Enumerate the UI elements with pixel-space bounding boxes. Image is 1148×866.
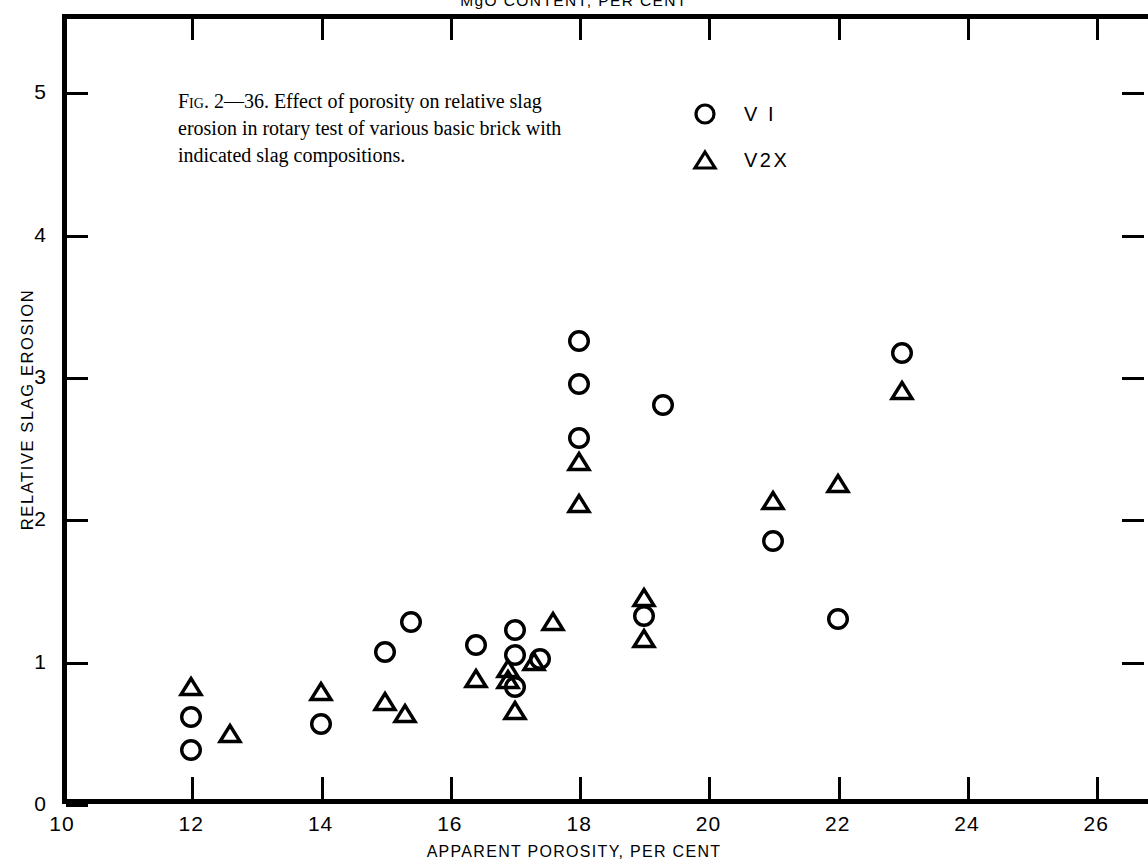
data-point-circle xyxy=(178,704,204,730)
data-point-circle xyxy=(650,392,676,418)
x-tick-label: 22 xyxy=(825,812,850,836)
y-tick-label: 0 xyxy=(22,792,46,816)
y-tick-left xyxy=(66,519,88,522)
x-tick-bottom xyxy=(579,777,582,799)
y-tick-label: 1 xyxy=(22,650,46,674)
data-point-circle xyxy=(178,737,204,763)
data-point-circle xyxy=(825,606,851,632)
data-point-triangle xyxy=(888,378,916,404)
data-point-triangle xyxy=(462,666,490,692)
y-tick-right xyxy=(1122,519,1144,522)
data-point-circle xyxy=(463,632,489,658)
x-tick-top xyxy=(321,18,324,40)
x-tick-top xyxy=(708,18,711,40)
data-point-circle xyxy=(566,328,592,354)
data-point-triangle xyxy=(539,609,567,635)
figure-caption: Fig. 2—36. Effect of porosity on relativ… xyxy=(178,88,578,168)
axis-left-line xyxy=(62,14,67,804)
axis-top-line xyxy=(62,14,1148,19)
x-tick-top xyxy=(967,18,970,40)
data-point-triangle xyxy=(391,701,419,727)
data-point-circle xyxy=(398,609,424,635)
legend-label-v2x: V2X xyxy=(744,149,789,172)
y-tick-right xyxy=(1122,235,1144,238)
x-tick-label: 12 xyxy=(179,812,204,836)
legend-item-v1: V I xyxy=(688,96,789,132)
x-tick-bottom xyxy=(450,777,453,799)
y-tick-left xyxy=(66,235,88,238)
data-point-triangle xyxy=(565,449,593,475)
x-tick-label: 26 xyxy=(1084,812,1109,836)
data-point-circle xyxy=(889,340,915,366)
y-tick-right xyxy=(1122,92,1144,95)
x-tick-label: 10 xyxy=(49,812,74,836)
x-tick-bottom xyxy=(321,777,324,799)
legend-item-v2x: V2X xyxy=(688,142,789,178)
data-point-triangle xyxy=(501,698,529,724)
legend: V I V2X xyxy=(688,96,789,188)
data-point-triangle xyxy=(824,471,852,497)
data-point-triangle xyxy=(216,721,244,747)
y-tick-left xyxy=(66,662,88,665)
y-tick-right xyxy=(1122,377,1144,380)
data-point-circle xyxy=(308,711,334,737)
x-tick-top xyxy=(191,18,194,40)
x-tick-label: 18 xyxy=(566,812,591,836)
data-point-circle xyxy=(372,639,398,665)
axis-bottom-line xyxy=(62,799,1148,804)
x-tick-top xyxy=(450,18,453,40)
x-tick-top xyxy=(1096,18,1099,40)
y-tick-right xyxy=(1122,662,1144,665)
data-point-triangle xyxy=(177,674,205,700)
data-point-triangle xyxy=(759,488,787,514)
data-point-triangle xyxy=(307,679,335,705)
x-tick-bottom xyxy=(967,777,970,799)
y-tick-left xyxy=(66,92,88,95)
data-point-triangle xyxy=(520,649,548,675)
x-tick-bottom xyxy=(838,777,841,799)
figure-scatter-plot: MgO CONTENT, PER CENT 101214161820222426… xyxy=(0,0,1148,866)
data-point-triangle xyxy=(630,585,658,611)
data-point-triangle xyxy=(494,667,522,693)
x-tick-bottom xyxy=(191,777,194,799)
data-point-triangle xyxy=(630,626,658,652)
data-point-circle xyxy=(566,425,592,451)
triangle-marker-icon xyxy=(688,148,722,172)
data-point-circle xyxy=(760,528,786,554)
y-tick-left xyxy=(66,377,88,380)
x-tick-label: 14 xyxy=(308,812,333,836)
y-tick-left xyxy=(66,804,88,807)
x-tick-top xyxy=(579,18,582,40)
y-axis-title: RELATIVE SLAG EROSION xyxy=(18,220,37,600)
data-point-circle xyxy=(566,371,592,397)
x-tick-bottom xyxy=(1096,777,1099,799)
x-tick-top xyxy=(62,18,65,40)
legend-label-v1: V I xyxy=(744,103,776,126)
data-point-circle xyxy=(502,617,528,643)
circle-marker-icon xyxy=(688,102,722,126)
top-axis-title: MgO CONTENT, PER CENT xyxy=(0,0,1148,10)
x-tick-label: 20 xyxy=(696,812,721,836)
y-tick-label: 5 xyxy=(22,80,46,104)
data-point-triangle xyxy=(565,491,593,517)
x-tick-label: 16 xyxy=(437,812,462,836)
x-tick-bottom xyxy=(708,777,711,799)
x-axis-title: APPARENT POROSITY, PER CENT xyxy=(0,843,1148,861)
x-tick-label: 24 xyxy=(954,812,979,836)
x-tick-bottom xyxy=(62,777,65,799)
x-tick-top xyxy=(838,18,841,40)
figure-number: Fig. 2—36. xyxy=(178,90,269,112)
